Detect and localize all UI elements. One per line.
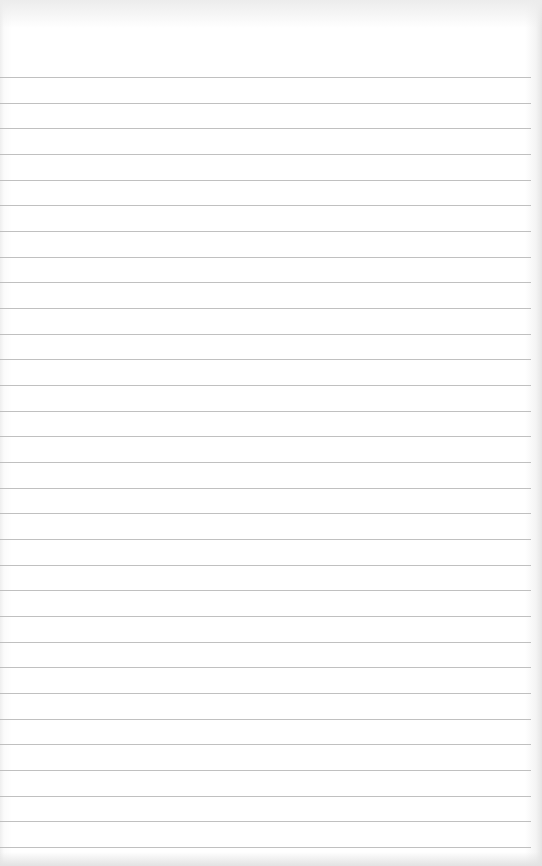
ruled-line — [0, 616, 531, 617]
ruled-line — [0, 205, 531, 206]
ruled-line — [0, 667, 531, 668]
paper-bottom-edge — [0, 852, 542, 866]
ruled-line — [0, 257, 531, 258]
ruled-line — [0, 770, 531, 771]
ruled-line — [0, 488, 531, 489]
ruled-line — [0, 411, 531, 412]
lined-paper-sheet — [0, 0, 542, 866]
ruled-line — [0, 180, 531, 181]
ruled-line — [0, 847, 531, 848]
ruled-line — [0, 539, 531, 540]
ruled-line — [0, 77, 531, 78]
ruled-line — [0, 719, 531, 720]
ruled-line — [0, 462, 531, 463]
ruled-line — [0, 282, 531, 283]
ruled-line — [0, 590, 531, 591]
ruled-line — [0, 796, 531, 797]
ruled-line — [0, 385, 531, 386]
ruled-line — [0, 359, 531, 360]
ruled-line — [0, 334, 531, 335]
ruled-line — [0, 565, 531, 566]
paper-top-edge — [0, 0, 542, 28]
ruled-line — [0, 642, 531, 643]
ruled-line — [0, 693, 531, 694]
ruled-line — [0, 103, 531, 104]
ruled-line — [0, 154, 531, 155]
ruled-line — [0, 231, 531, 232]
ruled-line — [0, 821, 531, 822]
ruled-line — [0, 513, 531, 514]
ruled-line — [0, 308, 531, 309]
ruled-line — [0, 436, 531, 437]
ruled-line — [0, 128, 531, 129]
ruled-line — [0, 744, 531, 745]
